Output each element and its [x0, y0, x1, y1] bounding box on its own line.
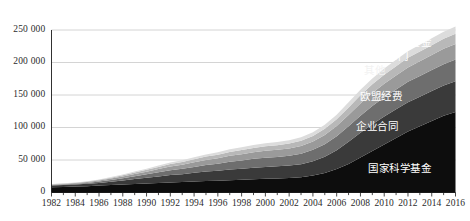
x-axis-tick-label: 2016: [442, 198, 470, 208]
y-axis-tick-label: 250 000: [0, 24, 46, 34]
y-axis-tick-label: 50 000: [0, 154, 46, 164]
y-axis-tick-label: 100 000: [0, 121, 46, 131]
y-axis-tick-label: 0: [0, 186, 46, 196]
stacked-area-chart: 050 000100 000150 000200 000250 000 1982…: [0, 0, 470, 221]
chart-canvas: [0, 0, 470, 221]
y-axis-tick-label: 150 000: [0, 89, 46, 99]
y-axis-tick-label: 200 000: [0, 56, 46, 66]
